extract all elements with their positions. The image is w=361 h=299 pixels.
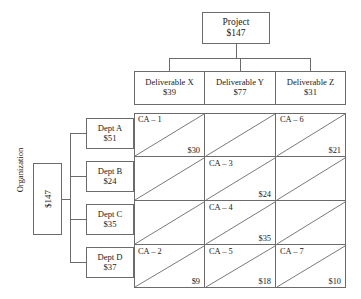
cost-account-amount: $24: [258, 190, 271, 199]
organization-box: $147: [33, 163, 62, 235]
deliverable-x-amount: $39: [163, 88, 176, 98]
organization-amount: $147: [42, 190, 52, 208]
matrix-cell: [276, 157, 346, 201]
connector-deliverable-x-drop: [169, 58, 170, 71]
cost-account-amount: $30: [187, 146, 200, 155]
matrix-cell: [134, 157, 205, 201]
department-box-b: Dept B $24: [86, 161, 134, 192]
figure-canvas: Project $147 Deliverable X $39 Deliverab…: [0, 0, 361, 299]
cost-account-amount: $9: [192, 277, 200, 286]
matrix-cell: CA – 6 $21: [276, 113, 346, 157]
cost-account-amount: $10: [328, 277, 341, 286]
matrix-cell: CA – 2 $9: [134, 245, 205, 288]
matrix-cell: CA – 1 $30: [134, 113, 205, 157]
cost-account-amount: $21: [328, 146, 341, 155]
cost-account-id: CA – 4: [209, 203, 233, 212]
matrix-cell: [276, 201, 346, 245]
cost-account-id: CA – 1: [138, 115, 162, 124]
matrix-cell: [205, 113, 276, 157]
matrix-cell: CA – 4 $35: [205, 201, 276, 245]
deliverable-z-amount: $31: [304, 88, 317, 98]
cost-account-id: CA – 3: [209, 159, 233, 168]
connector-dept-c-stub: [70, 219, 86, 220]
matrix-cell: [134, 201, 205, 245]
deliverable-y-amount: $77: [234, 88, 247, 98]
connector-deliverable-y-drop: [240, 58, 241, 71]
dept-d-amount: $37: [104, 263, 117, 273]
dept-b-amount: $24: [104, 177, 117, 187]
connector-department-bus: [70, 133, 71, 263]
cost-account-id: CA – 7: [280, 247, 304, 256]
cost-account-id: CA – 5: [209, 247, 233, 256]
cost-account-id: CA – 6: [280, 115, 304, 124]
department-box-c: Dept C $35: [86, 204, 134, 235]
dept-a-amount: $51: [104, 134, 117, 144]
connector-project-drop: [236, 44, 237, 58]
organization-label: Organization: [13, 134, 27, 206]
department-box-d: Dept D $37: [86, 247, 134, 278]
cost-account-amount: $18: [258, 277, 271, 286]
cost-account-id: CA – 2: [138, 247, 162, 256]
connector-dept-d-stub: [70, 262, 86, 263]
deliverable-box-z: Deliverable Z $31: [275, 71, 346, 105]
matrix-cell: CA – 7 $10: [276, 245, 346, 288]
deliverable-box-x: Deliverable X $39: [134, 71, 205, 105]
project-box: Project $147: [202, 12, 270, 44]
cost-account-amount: $35: [258, 234, 271, 243]
project-amount: $147: [227, 28, 246, 39]
connector-dept-b-stub: [70, 176, 86, 177]
cost-account-matrix: CA – 1 $30 CA – 6 $21 CA – 3 $24: [134, 113, 346, 288]
deliverable-box-y: Deliverable Y $77: [204, 71, 276, 105]
matrix-cell: CA – 3 $24: [205, 157, 276, 201]
department-box-a: Dept A $51: [86, 118, 134, 149]
dept-c-amount: $35: [104, 220, 117, 230]
connector-deliverable-z-drop: [310, 58, 311, 71]
matrix-cell: CA – 5 $18: [205, 245, 276, 288]
project-name: Project: [223, 17, 250, 28]
connector-dept-a-stub: [70, 133, 86, 134]
